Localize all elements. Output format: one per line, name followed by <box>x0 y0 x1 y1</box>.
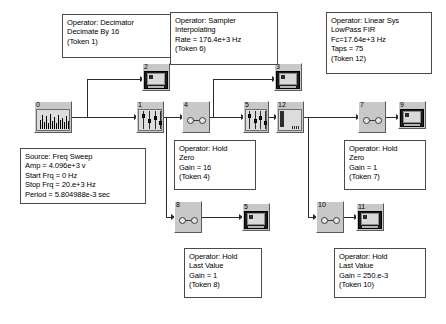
note-hold-zero-1: Operator: Hold Zero Gain = 1 (Token 7) <box>344 140 426 190</box>
wire-to-n2 <box>87 79 142 80</box>
node-id-12: 12 <box>278 101 286 108</box>
note-hold-zero-16: Operator: Hold Zero Gain = 16 (Token 4) <box>174 140 256 190</box>
fader-icon <box>138 109 162 131</box>
node-display-11[interactable]: 11 <box>356 203 384 231</box>
hold-circles-icon <box>318 209 342 231</box>
fader-icon <box>245 109 267 131</box>
note-hold-last-1: Operator: Hold Last Value Gain = 1 (Toke… <box>184 248 262 298</box>
node-id-6: 5 <box>245 101 249 108</box>
monitor-icon <box>276 71 300 89</box>
node-sampler-interpolating[interactable]: 5 <box>243 101 269 133</box>
wire-n12-drop-n10 <box>308 117 309 217</box>
wire-n4-to-n6 <box>210 117 243 118</box>
wire-n1-drop-n8 <box>166 117 167 217</box>
wire-n8-to-n5 <box>202 217 241 218</box>
wire-to-n3 <box>213 79 274 80</box>
node-display-5[interactable]: 5 <box>242 203 270 231</box>
node-id-7: 7 <box>360 101 364 108</box>
node-id-11: 11 <box>358 203 365 210</box>
node-id-0: 0 <box>36 101 40 108</box>
node-id-9: 9 <box>400 101 404 108</box>
node-id-8: 8 <box>176 201 180 208</box>
monitor-icon <box>144 71 168 89</box>
node-id-10: 10 <box>318 201 326 208</box>
note-source: Source: Freq Sweep Amp = 4.096e+3 v Star… <box>20 148 146 204</box>
node-hold-zero-gain-1[interactable]: 7 <box>358 101 386 133</box>
note-linear-sys: Operator: Linear Sys LowPass FIR Fc=17.6… <box>326 12 432 74</box>
node-hold-last-value-gain-250m[interactable]: 10 <box>316 201 344 233</box>
wire-source-to-n1 <box>72 117 136 118</box>
node-source-freq-sweep[interactable]: 0 <box>34 101 72 133</box>
node-display-2[interactable]: 2 <box>142 63 170 91</box>
hold-circles-icon <box>360 109 384 131</box>
wire-branch-up-n3 <box>213 79 214 118</box>
wire-n12-to-n7 <box>304 117 358 118</box>
monitor-icon <box>358 211 382 229</box>
waveform-icon <box>36 109 70 131</box>
wire-n1-to-n4 <box>162 117 182 118</box>
hold-circles-icon <box>184 109 208 131</box>
node-display-9[interactable]: 9 <box>398 101 426 129</box>
node-id-5: 5 <box>244 203 248 210</box>
note-decimator: Operator: Decimator Decimate By 16 (Toke… <box>62 14 174 58</box>
lowpass-filter-icon <box>278 109 302 131</box>
monitor-icon <box>400 109 424 127</box>
block-diagram-canvas: 0 1 2 <box>0 0 446 324</box>
node-display-3[interactable]: 3 <box>274 63 302 91</box>
hold-circles-icon <box>176 209 200 231</box>
note-hold-last-250m: Operator: Hold Last Value Gain = 250.e-3… <box>334 248 426 298</box>
node-id-4: 4 <box>184 101 188 108</box>
wire-branch-up-n2 <box>87 79 88 118</box>
node-decimator[interactable]: 1 <box>136 101 164 133</box>
note-sampler: Operator: Sampler Interpolating Rate = 1… <box>170 12 278 65</box>
monitor-icon <box>244 211 268 229</box>
node-id-1: 1 <box>138 101 142 108</box>
node-linear-sys-lowpass-fir[interactable]: 12 <box>276 101 304 133</box>
node-hold-zero-gain-16[interactable]: 4 <box>182 101 210 133</box>
node-id-2: 2 <box>144 63 148 70</box>
node-hold-last-value-gain-1[interactable]: 8 <box>174 201 202 233</box>
